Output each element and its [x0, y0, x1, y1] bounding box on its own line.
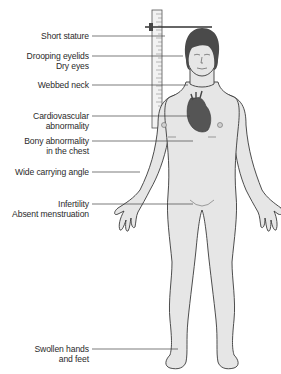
label-webbed-neck: Webbed neck: [38, 80, 89, 90]
label-swollen: Swollen handsand feet: [34, 344, 89, 364]
label-text: Dry eyes: [56, 61, 89, 71]
label-text: Bony abnormality: [24, 136, 89, 146]
label-text: and feet: [59, 354, 89, 364]
label-drooping-eyelids: Drooping eyelidsDry eyes: [27, 51, 89, 71]
label-text: abnormality: [46, 121, 89, 131]
label-short-stature: Short stature: [41, 31, 89, 41]
label-text: Wide carrying angle: [15, 167, 89, 177]
label-cardiovascular: Cardiovascularabnormality: [33, 111, 89, 131]
label-text: Swollen hands: [34, 344, 89, 354]
label-text: Cardiovascular: [33, 111, 89, 121]
label-text: Short stature: [41, 31, 89, 41]
label-infertility: InfertilityAbsent menstruation: [12, 199, 89, 219]
label-text: Absent menstruation: [12, 209, 89, 219]
label-text: Drooping eyelids: [27, 51, 89, 61]
label-text: Infertility: [58, 199, 89, 209]
label-text: in the chest: [46, 146, 89, 156]
label-text: Webbed neck: [38, 80, 89, 90]
label-bony-chest: Bony abnormalityin the chest: [24, 136, 89, 156]
label-carrying-angle: Wide carrying angle: [15, 167, 89, 177]
body-outline-icon: [115, 36, 281, 369]
